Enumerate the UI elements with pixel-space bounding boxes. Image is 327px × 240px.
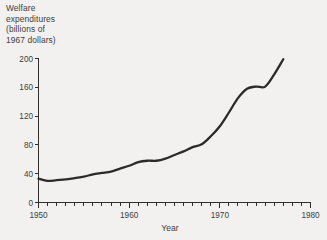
y-axis-tick-labels: 04080120160200 [19, 55, 33, 208]
y-tick-label: 80 [24, 141, 34, 150]
x-tick-label: 1950 [29, 211, 48, 220]
x-axis-tick-labels: 1950196019701980 [29, 211, 320, 220]
x-axis-title: Year [161, 223, 179, 233]
line-chart: 04080120160200 1950196019701980 Year [0, 0, 327, 240]
y-tick-label: 160 [19, 83, 33, 92]
y-tick-label: 40 [24, 170, 34, 179]
y-tick-label: 200 [19, 55, 33, 64]
y-tick-label: 0 [28, 199, 33, 208]
data-series-line [39, 59, 284, 181]
x-tick-label: 1960 [120, 211, 139, 220]
x-tick-label: 1980 [301, 211, 320, 220]
chart-figure: Welfare expenditures (billions of 1967 d… [0, 0, 327, 240]
y-tick-label: 120 [19, 112, 33, 121]
x-tick-label: 1970 [211, 211, 230, 220]
